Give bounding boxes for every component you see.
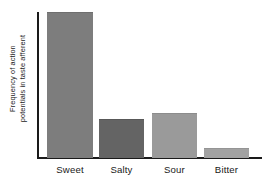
bar-bitter [204,148,249,158]
x-axis-label-sour: Sour [152,164,197,175]
x-axis-label-salty: Salty [99,164,144,175]
plot-area [39,12,262,158]
x-axis-label-bitter: Bitter [204,164,249,175]
x-axis-label-sweet: Sweet [47,164,93,175]
bar-sweet [47,12,93,158]
bar-sour [152,113,197,158]
y-axis-label-line-2: potentials in taste afferent [18,35,28,122]
bar-salty [99,119,144,158]
y-axis-label-line-1: Frequency of action [8,35,18,122]
bar-chart: Frequency of action potentials in taste … [0,0,276,190]
y-axis-label: Frequency of action potentials in taste … [0,0,36,158]
